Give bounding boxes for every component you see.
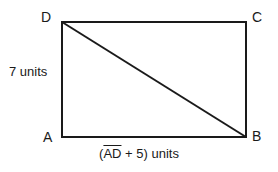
vertex-label-b: B	[252, 129, 261, 143]
left-side-measure-label: 7 units	[9, 64, 47, 79]
diagonal-segment-db	[62, 22, 246, 137]
vertex-label-d: D	[41, 10, 51, 24]
bottom-label-suffix: + 5) units	[121, 146, 178, 161]
geometry-figure: D C A B 7 units (AD + 5) units	[0, 0, 278, 172]
bottom-label-segment-ad: AD	[103, 146, 121, 161]
vertex-label-a: A	[43, 130, 52, 144]
vertex-label-c: C	[252, 10, 262, 24]
bottom-side-measure-label: (AD + 5) units	[0, 146, 278, 161]
